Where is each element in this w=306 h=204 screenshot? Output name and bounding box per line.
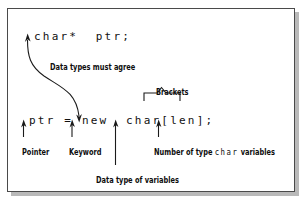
annotation-number-prefix: Number of type: [154, 148, 212, 157]
annotation-number-suffix: variables: [241, 148, 275, 157]
annotation-data-type-of-variables: Data type of variables: [96, 177, 179, 185]
annotation-number-mono-char: char: [215, 148, 239, 157]
code-line-declaration: char* ptr;: [34, 31, 131, 42]
annotation-brackets: Brackets: [156, 89, 189, 97]
annotation-number-of-char-variables: Number of type char variables: [154, 149, 275, 157]
figure-container: char* ptr; ptr = new char[len]; Data typ…: [0, 0, 306, 204]
annotation-data-types-must-agree: Data types must agree: [50, 64, 135, 72]
annotation-keyword: Keyword: [69, 149, 101, 157]
annotation-pointer: Pointer: [22, 149, 49, 157]
figure-frame: char* ptr; ptr = new char[len]; Data typ…: [7, 8, 295, 192]
code-line-allocation: ptr = new char[len];: [29, 115, 214, 126]
